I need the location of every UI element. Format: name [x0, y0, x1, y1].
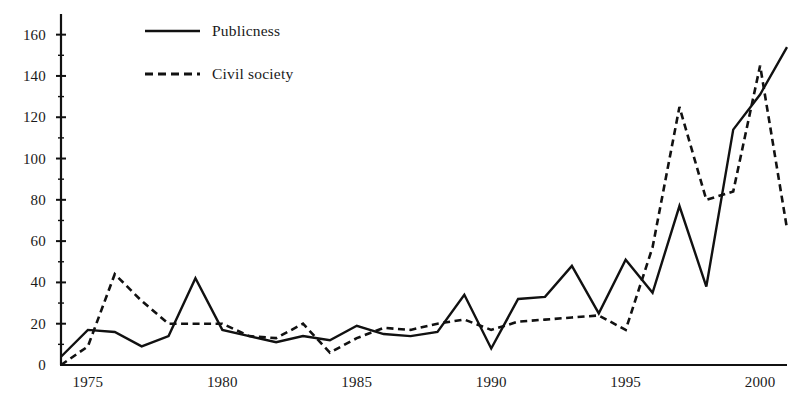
x-tick-label: 1980 — [207, 374, 238, 391]
y-tick-label: 0 — [0, 357, 46, 374]
y-tick-label: 140 — [0, 67, 46, 84]
plot-area — [0, 0, 793, 396]
series-line-publicness — [61, 47, 787, 357]
x-tick-label: 1975 — [72, 374, 103, 391]
legend-line-samples — [145, 31, 200, 74]
line-chart: 020406080100120140160 197519801985199019… — [0, 0, 793, 396]
x-tick-label: 1985 — [341, 374, 372, 391]
y-tick-label: 160 — [0, 26, 46, 43]
y-tick-label: 20 — [0, 315, 46, 332]
legend-label-civil-society: Civil society — [212, 65, 293, 83]
y-tick-label: 120 — [0, 109, 46, 126]
y-tick-label: 60 — [0, 233, 46, 250]
y-tick-label: 40 — [0, 274, 46, 291]
x-tick-label: 1990 — [476, 374, 507, 391]
series-line-civil-society — [61, 66, 787, 365]
axis-lines — [60, 14, 787, 365]
legend-label-publicness: Publicness — [212, 22, 280, 40]
x-tick-label: 2000 — [745, 374, 776, 391]
y-tick-label: 80 — [0, 191, 46, 208]
x-tick-label: 1995 — [610, 374, 641, 391]
y-tick-label: 100 — [0, 150, 46, 167]
series-lines — [61, 47, 787, 365]
